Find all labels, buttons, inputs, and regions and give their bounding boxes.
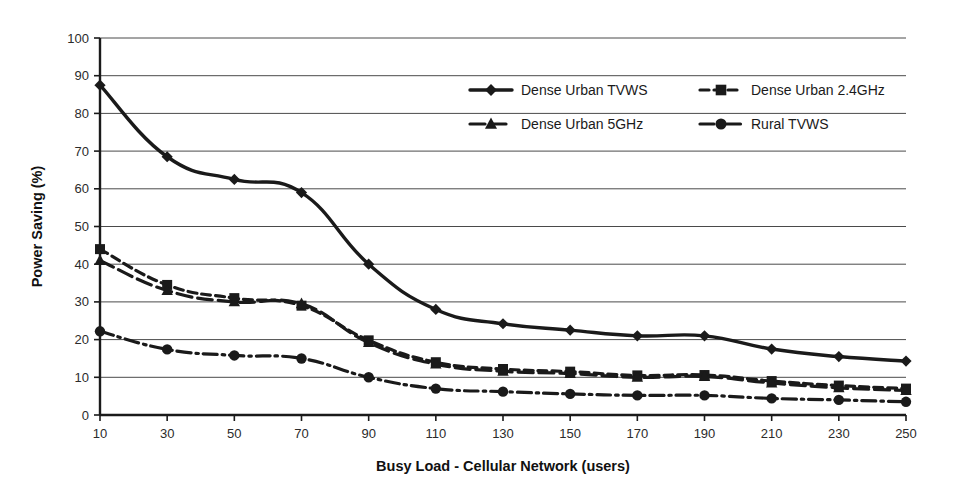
y-tick-label: 70	[75, 144, 89, 159]
circle-marker	[95, 326, 105, 336]
square-marker	[95, 244, 105, 254]
chart-container: 0102030405060708090100 10305070901101301…	[0, 0, 956, 484]
circle-marker	[296, 353, 306, 363]
triangle-marker	[94, 254, 105, 265]
diamond-marker	[900, 355, 911, 366]
y-tick-label: 100	[67, 31, 89, 46]
circle-marker	[363, 372, 373, 382]
square-marker	[716, 85, 727, 96]
diamond-marker	[565, 325, 576, 336]
circle-marker	[632, 390, 642, 400]
x-axis-title: Busy Load - Cellular Network (users)	[376, 458, 630, 474]
x-tick-label: 170	[626, 426, 648, 441]
legend-entry-dense-urban-5ghz[interactable]: Dense Urban 5GHz	[470, 116, 643, 132]
x-tick-label: 90	[361, 426, 375, 441]
y-tick-label: 20	[75, 332, 89, 347]
x-tick-label: 150	[559, 426, 581, 441]
circle-marker	[901, 397, 911, 407]
legend-label: Dense Urban 5GHz	[521, 116, 643, 132]
x-tick-label: 30	[160, 426, 174, 441]
y-tick-label: 40	[75, 257, 89, 272]
diamond-marker	[229, 174, 240, 185]
x-tick-label: 190	[694, 426, 716, 441]
x-tick-labels-group: 1030507090110130150170190210230250	[93, 426, 917, 441]
legend-label: Dense Urban TVWS	[521, 82, 648, 98]
legend-label: Dense Urban 2.4GHz	[751, 82, 885, 98]
legend-entry-dense-urban-tvws[interactable]: Dense Urban TVWS	[470, 82, 648, 98]
y-tick-label: 90	[75, 68, 89, 83]
y-tick-label: 0	[82, 408, 89, 423]
circle-marker	[498, 386, 508, 396]
legend-entry-dense-urban-2-4ghz[interactable]: Dense Urban 2.4GHz	[700, 82, 885, 98]
x-tick-label: 110	[425, 426, 446, 441]
legend-label: Rural TVWS	[751, 116, 829, 132]
y-tick-label: 10	[75, 370, 89, 385]
circle-marker	[162, 344, 172, 354]
circle-marker	[766, 393, 776, 403]
x-tick-label: 130	[492, 426, 514, 441]
x-tick-label: 10	[93, 426, 107, 441]
x-tick-label: 230	[828, 426, 850, 441]
diamond-marker	[497, 318, 508, 329]
circle-marker	[699, 390, 709, 400]
chart-legend: Dense Urban TVWSDense Urban 2.4GHzDense …	[470, 82, 885, 132]
circle-marker	[431, 383, 441, 393]
y-tick-label: 80	[75, 106, 89, 121]
legend-entry-rural-tvws[interactable]: Rural TVWS	[700, 116, 829, 132]
diamond-marker	[485, 84, 497, 96]
circle-marker	[229, 350, 239, 360]
power-saving-line-chart: 0102030405060708090100 10305070901101301…	[0, 0, 956, 484]
x-tick-label: 210	[761, 426, 783, 441]
circle-marker	[834, 395, 844, 405]
circle-marker	[715, 118, 726, 129]
x-tick-label: 50	[227, 426, 241, 441]
y-tick-label: 60	[75, 181, 89, 196]
y-tick-label: 50	[75, 219, 89, 234]
x-tick-label: 70	[294, 426, 308, 441]
x-tick-label: 250	[895, 426, 917, 441]
y-tick-labels-group: 0102030405060708090100	[67, 31, 89, 423]
diamond-marker	[833, 351, 844, 362]
circle-marker	[565, 389, 575, 399]
y-axis-title: Power Saving (%)	[29, 166, 45, 288]
diamond-marker	[766, 343, 777, 354]
y-tick-label: 30	[75, 294, 89, 309]
diamond-marker	[430, 304, 441, 315]
